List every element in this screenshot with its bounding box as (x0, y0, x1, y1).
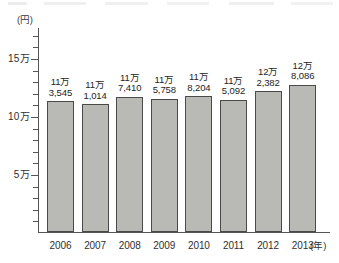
bar-2012[interactable] (255, 91, 282, 232)
y-tick-minor (33, 36, 39, 37)
y-tick-minor (33, 210, 39, 211)
x-tick-label-2010: 2010 (182, 240, 216, 251)
y-tick-minor (33, 198, 39, 199)
bar-2007[interactable] (82, 104, 109, 232)
bar-2011[interactable] (220, 100, 247, 232)
y-tick-minor (33, 47, 39, 48)
y-tick-minor (33, 129, 39, 130)
bar-value-label-line2: 8,086 (283, 71, 323, 82)
y-tick-label-5man: 5万 (0, 170, 30, 180)
x-axis-line (38, 232, 330, 233)
bar-2008[interactable] (116, 97, 143, 232)
y-tick-minor (33, 140, 39, 141)
y-tick-minor (33, 94, 39, 95)
y-tick-label-15man: 15万 (0, 54, 30, 64)
y-tick-minor (33, 105, 39, 106)
y-tick-label-15man-wrap: 15万 (0, 54, 30, 64)
x-axis-unit-label: (年) (310, 240, 326, 251)
y-axis-unit-label: (円) (17, 14, 33, 25)
y-tick-major-10man (31, 117, 39, 118)
x-tick-label-2012: 2012 (251, 240, 285, 251)
bar-value-label-2013: 12万 8,086 (283, 61, 323, 82)
y-tick-minor (33, 221, 39, 222)
bar-chart: (円) 15万 10万 5万 11万 3,545 11万 1,014 (0, 0, 339, 263)
y-tick-minor (33, 82, 39, 83)
x-tick-label-2006: 2006 (44, 240, 78, 251)
bar-2006[interactable] (47, 101, 74, 232)
y-tick-label-10man: 10万 (0, 112, 30, 122)
scan-artifact (8, 2, 333, 5)
x-tick-label-2011: 2011 (217, 240, 251, 251)
bar-2013[interactable] (289, 85, 316, 232)
y-tick-major-15man (31, 59, 39, 60)
bar-2009[interactable] (151, 99, 178, 232)
y-tick-major-5man (31, 175, 39, 176)
x-tick-label-2007: 2007 (78, 240, 112, 251)
y-tick-minor (33, 187, 39, 188)
bar-2010[interactable] (185, 96, 212, 232)
y-tick-minor (33, 163, 39, 164)
y-tick-minor (33, 152, 39, 153)
y-tick-minor (33, 71, 39, 72)
y-tick-label-10man-wrap: 10万 (0, 112, 30, 122)
x-tick-label-2008: 2008 (113, 240, 147, 251)
x-tick-label-2009: 2009 (147, 240, 181, 251)
y-tick-label-5man-wrap: 5万 (0, 170, 30, 180)
